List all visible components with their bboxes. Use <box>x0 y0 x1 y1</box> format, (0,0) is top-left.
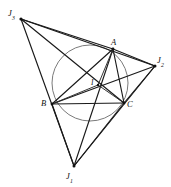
point-label-I-text: I <box>91 78 94 87</box>
vertex-dot-C <box>123 102 126 105</box>
segment-chord-J1-B <box>52 104 74 166</box>
figure-canvas <box>0 0 171 187</box>
point-label-J1-subscript: 1 <box>70 178 73 184</box>
vertex-dot-I <box>97 84 99 86</box>
segment-inradius-IB <box>52 85 98 104</box>
point-label-J2-subscript: 2 <box>161 62 164 68</box>
vertex-dot-J1 <box>73 165 76 168</box>
segment-chord-J1-C <box>74 103 124 166</box>
segment-side-BC <box>52 103 124 104</box>
point-label-J1: J1 <box>66 172 73 183</box>
vertex-dot-B <box>51 103 54 106</box>
point-label-J2: J2 <box>157 56 164 67</box>
point-label-C: C <box>127 100 133 109</box>
incircle <box>52 45 128 121</box>
segment-inradius-IA <box>98 49 113 85</box>
vertex-dot-A <box>112 48 115 51</box>
segment-inradius-IC <box>98 85 124 103</box>
point-label-B: B <box>41 99 46 108</box>
point-label-J3: J3 <box>8 9 15 20</box>
point-label-C-text: C <box>127 99 133 109</box>
point-label-I: I <box>91 79 94 87</box>
segment-chord-J2-A <box>113 49 155 66</box>
point-label-A: A <box>111 38 116 47</box>
point-label-A-text: A <box>111 37 116 47</box>
point-label-B-text: B <box>41 98 46 108</box>
segment-chord-J3-A <box>21 19 113 49</box>
geometry-figure: A B C I J1 J2 J3 <box>0 0 171 187</box>
vertex-dot-J3 <box>19 17 22 20</box>
point-label-J3-subscript: 3 <box>12 15 15 21</box>
